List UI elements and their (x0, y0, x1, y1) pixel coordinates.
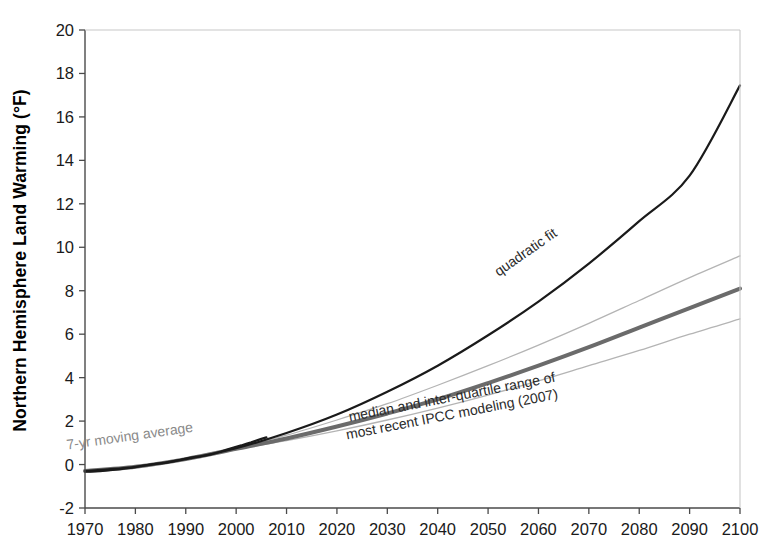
x-tick-label: 1970 (67, 520, 104, 538)
y-tick-label: 0 (65, 456, 74, 474)
y-tick-label: 12 (56, 195, 74, 213)
y-tick-label: 20 (56, 21, 74, 39)
x-tick-label: 1990 (167, 520, 204, 538)
y-tick-label: -2 (59, 499, 74, 517)
x-tick-label: 2090 (671, 520, 708, 538)
x-tick-label: 2020 (319, 520, 356, 538)
x-tick-label: 1980 (117, 520, 154, 538)
y-tick-label: 18 (56, 64, 74, 82)
y-tick-label: 2 (65, 412, 74, 430)
x-tick-label: 2100 (722, 520, 759, 538)
y-tick-label: 4 (65, 369, 74, 387)
quadratic-fit-label: quadratic fit (491, 224, 560, 279)
y-tick-label: 14 (56, 151, 74, 169)
x-tick-label: 2050 (470, 520, 507, 538)
x-tick-label: 2030 (369, 520, 406, 538)
y-tick-label: 10 (56, 238, 74, 256)
y-tick-label: 6 (65, 325, 74, 343)
y-tick-label: 8 (65, 282, 74, 300)
x-tick-label: 2000 (218, 520, 255, 538)
series-line (85, 256, 740, 471)
chart-plot-svg: -202468101214161820197019801990200020102… (0, 0, 782, 558)
chart-container: Northern Hemisphere Land Warming (°F) -2… (0, 0, 782, 558)
annotation-layer: quadratic fit7-yr moving averagemedian a… (65, 224, 559, 452)
axis-layer: -202468101214161820197019801990200020102… (56, 21, 759, 538)
x-tick-label: 2010 (268, 520, 305, 538)
y-tick-label: 16 (56, 108, 74, 126)
x-tick-label: 2060 (520, 520, 557, 538)
x-tick-label: 2080 (621, 520, 658, 538)
x-tick-label: 2040 (419, 520, 456, 538)
x-tick-label: 2070 (570, 520, 607, 538)
